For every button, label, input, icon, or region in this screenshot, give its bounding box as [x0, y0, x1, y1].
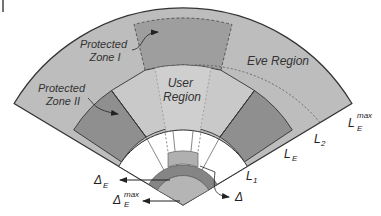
l-e-label: L E [284, 147, 298, 163]
l2-label: L 2 [314, 132, 326, 148]
svg-text:E: E [292, 154, 298, 163]
svg-text:1: 1 [253, 176, 257, 185]
svg-text:Δ: Δ [234, 190, 243, 204]
protected-zone-1 [134, 18, 232, 70]
l-e-max-label: L E max [348, 111, 373, 133]
svg-text:E: E [103, 181, 109, 190]
eve-region-label: Eve Region [247, 54, 309, 68]
svg-text:L: L [246, 169, 253, 183]
svg-text:Δ: Δ [112, 193, 121, 207]
user-region-label: User Region [163, 76, 201, 104]
svg-text:E: E [357, 124, 363, 133]
svg-text:max: max [357, 111, 373, 120]
delta-e-label: Δ E [93, 173, 109, 190]
svg-text:L: L [314, 132, 321, 146]
svg-text:2: 2 [320, 139, 326, 148]
svg-text:Δ: Δ [93, 173, 102, 187]
delta-e-max-label: Δ E max [112, 190, 140, 209]
svg-text:max: max [124, 190, 140, 199]
svg-text:E: E [124, 200, 130, 209]
svg-text:L: L [348, 116, 355, 130]
secure-region-diagram: Protected Zone I Protected Zone II User … [0, 0, 381, 216]
delta-label: Δ [234, 190, 243, 204]
svg-text:L: L [284, 147, 291, 161]
l1-label: L 1 [246, 169, 257, 185]
